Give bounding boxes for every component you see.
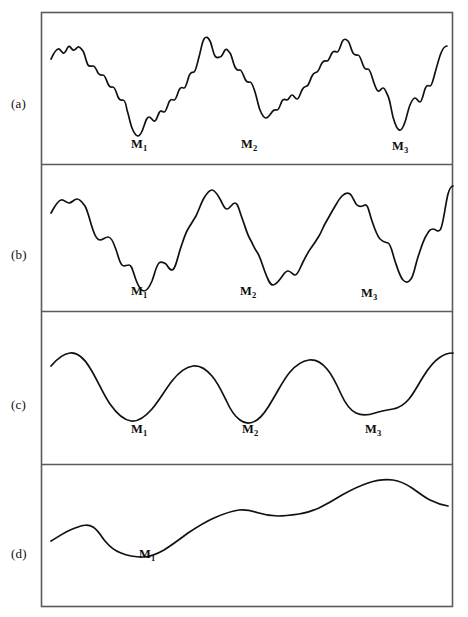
minimum-label-c2: M2 <box>242 423 258 436</box>
panel-letter-b: (b) <box>11 247 27 263</box>
minimum-label-c3: M3 <box>365 423 381 436</box>
multi-panel-signal-figure: (a) (b) (c) (d) M1 M2 M3 M1 M2 M3 M1 M2 … <box>0 0 468 617</box>
minimum-label-b1: M1 <box>131 285 147 298</box>
minimum-label-a3: M3 <box>392 140 408 153</box>
minimum-label-b2: M2 <box>240 285 256 298</box>
minimum-label-a2: M2 <box>241 138 257 151</box>
minimum-label-a1: M1 <box>131 138 147 151</box>
minimum-label-c1: M1 <box>131 423 147 436</box>
panel-letter-d: (d) <box>11 546 27 562</box>
panel-frames <box>42 13 453 607</box>
panel-letter-c: (c) <box>11 397 26 413</box>
panel-letter-a: (a) <box>11 96 26 112</box>
figure-canvas <box>0 0 468 617</box>
minimum-label-d1: M1 <box>139 548 155 561</box>
minimum-label-b3: M3 <box>361 287 377 300</box>
